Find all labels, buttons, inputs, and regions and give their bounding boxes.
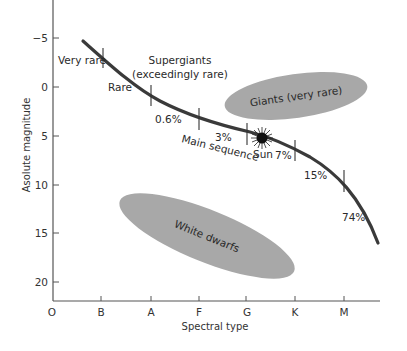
x-tick-label: K xyxy=(292,306,300,318)
x-tick-label: A xyxy=(147,306,155,318)
y-tick-label: 10 xyxy=(35,179,48,191)
supergiants-sublabel: (exceedingly rare) xyxy=(132,68,228,80)
x-axis-title: Spectral type xyxy=(182,321,249,332)
x-tick-label: M xyxy=(339,306,348,318)
sun-label: Sun xyxy=(253,148,273,160)
x-ticks xyxy=(101,296,344,301)
x-tick-label: F xyxy=(196,306,202,318)
y-tick-label: 20 xyxy=(35,276,48,288)
hr-diagram: −5 0 5 10 15 20 O B A F G K M Spectral t… xyxy=(0,0,407,351)
supergiants-label: Supergiants xyxy=(149,54,212,66)
pct-label: 0.6% xyxy=(155,113,182,125)
y-tick-label: 0 xyxy=(41,81,48,93)
rare-label: Rare xyxy=(108,81,132,93)
giants-region: Giants (very rare) xyxy=(222,64,371,128)
x-tick-labels: O B A F G K M xyxy=(48,306,349,318)
pct-label: 7% xyxy=(275,149,292,161)
white-dwarfs-region: White dwarfs xyxy=(110,177,304,296)
y-tick-label: −5 xyxy=(33,32,48,44)
y-tick-label: 5 xyxy=(41,130,48,142)
y-tick-labels: −5 0 5 10 15 20 xyxy=(33,32,48,288)
very-rare-label: Very rare xyxy=(58,54,106,66)
x-tick-label: G xyxy=(243,306,251,318)
x-tick-label: O xyxy=(48,306,56,318)
pct-label: 74% xyxy=(342,211,365,223)
y-ticks xyxy=(53,38,59,282)
sun-icon xyxy=(251,127,273,149)
pct-label: 15% xyxy=(304,169,327,181)
x-tick-label: B xyxy=(97,306,104,318)
y-tick-label: 15 xyxy=(35,227,48,239)
y-axis-title: Asolute magnitude xyxy=(21,98,32,193)
